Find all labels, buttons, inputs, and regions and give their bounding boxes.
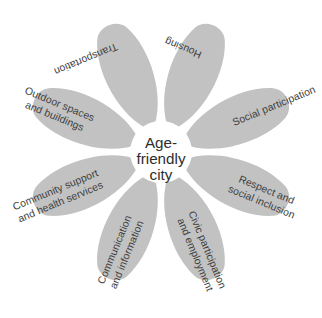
center-label-line-1: Age- bbox=[145, 134, 177, 151]
age-friendly-city-diagram: Age- friendly city Transportation Housin… bbox=[0, 0, 322, 318]
petal-group: Age- friendly city Transportation Housin… bbox=[11, 16, 317, 295]
center-label-line-2: friendly bbox=[137, 150, 186, 167]
center-label-line-3: city bbox=[150, 166, 173, 183]
flower-diagram-canvas: Age- friendly city Transportation Housin… bbox=[0, 0, 322, 318]
